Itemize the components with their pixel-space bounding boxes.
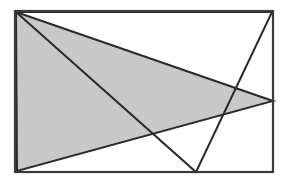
figure-container: Two overlapping triangles inscribed in a… <box>0 0 286 183</box>
geometry-figure <box>0 0 286 183</box>
